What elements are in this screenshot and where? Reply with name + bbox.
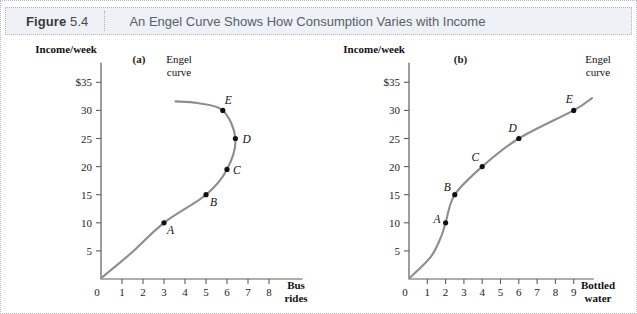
engel-curve-label-line1: Engel xyxy=(166,53,192,65)
x-tick-label: 8 xyxy=(266,286,272,298)
x-axis-title-line2: rides xyxy=(284,292,308,304)
data-point-label-E: E xyxy=(565,93,573,105)
data-point-label-B: B xyxy=(444,181,451,193)
figure-title: An Engel Curve Shows How Consumption Var… xyxy=(105,14,485,29)
engel-curve xyxy=(410,98,592,277)
x-axis-title-line2: water xyxy=(585,292,612,304)
panel-b: (b) 51015202530$351234567890Income/weekB… xyxy=(313,41,637,313)
x-tick-label: 6 xyxy=(224,286,230,298)
y-tick-label: 30 xyxy=(81,104,93,116)
data-point-label-C: C xyxy=(233,164,241,176)
data-point-label-A: A xyxy=(166,224,175,236)
y-tick-label: 10 xyxy=(389,217,401,229)
y-tick-label: $35 xyxy=(384,76,401,88)
origin-label: 0 xyxy=(94,286,100,298)
x-tick-label: 9 xyxy=(571,286,577,298)
y-axis-title: Income/week xyxy=(35,43,98,55)
x-tick-label: 6 xyxy=(516,286,522,298)
data-point-A xyxy=(161,220,166,225)
x-tick-label: 8 xyxy=(553,286,559,298)
origin-label: 0 xyxy=(402,286,408,298)
axis-lines xyxy=(101,63,303,279)
data-point-C xyxy=(480,164,485,169)
x-tick-label: 7 xyxy=(534,286,540,298)
figure-container: Figure 5.4 An Engel Curve Shows How Cons… xyxy=(0,0,637,314)
data-point-E xyxy=(571,108,576,113)
x-tick-label: 4 xyxy=(182,286,188,298)
y-tick-label: 10 xyxy=(81,217,93,229)
y-tick-label: 25 xyxy=(81,133,93,145)
figure-number-value: 5.4 xyxy=(70,14,88,29)
y-tick-label: 30 xyxy=(389,104,401,116)
y-tick-label: 15 xyxy=(389,189,401,201)
engel-curve-label-line1: Engel xyxy=(585,53,611,65)
x-tick-label: 5 xyxy=(498,286,504,298)
x-tick-label: 2 xyxy=(140,286,146,298)
x-tick-label: 7 xyxy=(245,286,251,298)
x-tick-label: 1 xyxy=(425,286,431,298)
x-tick-label: 1 xyxy=(119,286,125,298)
figure-word: Figure xyxy=(26,14,66,29)
y-tick-label: 25 xyxy=(389,133,401,145)
chart-b-plot: 51015202530$351234567890Income/weekBottl… xyxy=(313,41,637,313)
y-tick-label: 5 xyxy=(395,245,401,257)
x-tick-label: 3 xyxy=(161,286,167,298)
y-tick-label: 20 xyxy=(389,161,401,173)
y-tick-label: $35 xyxy=(76,76,93,88)
panel-a: (a) 51015202530$35123456780Income/weekBu… xyxy=(1,41,321,313)
chart-a-plot: 51015202530$35123456780Income/weekBusrid… xyxy=(1,41,321,313)
engel-curve-label-line2: curve xyxy=(586,66,611,78)
x-tick-label: 4 xyxy=(479,286,485,298)
data-point-label-E: E xyxy=(224,94,232,106)
x-tick-label: 2 xyxy=(443,286,449,298)
data-point-label-C: C xyxy=(472,151,480,163)
data-point-B xyxy=(203,192,208,197)
data-point-label-A: A xyxy=(433,213,442,225)
y-tick-label: 15 xyxy=(81,189,93,201)
y-tick-label: 20 xyxy=(81,161,93,173)
engel-curve-label-line2: curve xyxy=(167,66,192,78)
data-point-B xyxy=(452,192,457,197)
x-tick-label: 5 xyxy=(203,286,209,298)
data-point-label-B: B xyxy=(210,196,217,208)
figure-number: Figure 5.4 xyxy=(6,14,88,29)
data-point-A xyxy=(443,220,448,225)
figure-header: Figure 5.4 An Engel Curve Shows How Cons… xyxy=(5,7,632,35)
data-point-label-D: D xyxy=(241,133,251,145)
data-point-E xyxy=(220,108,225,113)
data-point-C xyxy=(224,167,229,172)
data-point-D xyxy=(516,136,521,141)
data-point-label-D: D xyxy=(507,122,517,134)
data-point-D xyxy=(233,136,238,141)
x-tick-label: 3 xyxy=(461,286,467,298)
y-axis-title: Income/week xyxy=(343,43,406,55)
x-axis-title-line1: Bottled xyxy=(581,279,615,291)
engel-curve xyxy=(102,101,235,277)
x-axis-title-line1: Bus xyxy=(287,279,305,291)
y-tick-label: 5 xyxy=(87,245,93,257)
